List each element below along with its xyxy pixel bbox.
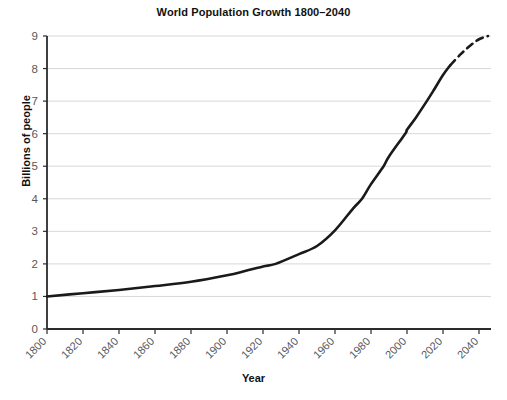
y-tick-label: 0 (32, 323, 38, 335)
x-tick-group: 1800182018401860188019001920194019601980… (23, 329, 481, 361)
y-tick-label: 1 (32, 290, 38, 302)
x-tick-label: 1960 (311, 335, 337, 361)
axis-lines-group (47, 36, 491, 329)
x-tick-label: 1940 (275, 335, 301, 361)
y-tick-group: 0123456789 (32, 30, 47, 335)
x-tick-label: 1800 (23, 335, 49, 361)
x-tick-label: 1880 (167, 335, 193, 361)
x-tick-label: 2020 (419, 335, 445, 361)
y-tick-label: 9 (32, 30, 38, 42)
data-line-dashed (450, 36, 488, 65)
x-tick-label: 1860 (131, 335, 157, 361)
x-tick-label: 1920 (239, 335, 265, 361)
x-tick-label: 2040 (455, 335, 481, 361)
y-axis-title: Billions of people (20, 71, 32, 211)
y-tick-label: 5 (32, 160, 38, 172)
chart-container: World Population Growth 1800–2040 012345… (0, 0, 507, 400)
x-axis-title: Year (0, 372, 507, 384)
data-line-solid (47, 65, 450, 296)
x-tick-label: 1900 (203, 335, 229, 361)
y-tick-label: 3 (32, 225, 38, 237)
x-tick-label: 1840 (95, 335, 121, 361)
y-tick-label: 7 (32, 95, 38, 107)
y-tick-label: 6 (32, 128, 38, 140)
x-tick-label: 1820 (59, 335, 85, 361)
x-tick-label: 1980 (347, 335, 373, 361)
y-tick-label: 2 (32, 258, 38, 270)
y-tick-label: 8 (32, 63, 38, 75)
chart-plot-area: 0123456789 18001820184018601880190019201… (0, 0, 507, 400)
gridlines-group (47, 36, 491, 296)
x-tick-label: 2000 (383, 335, 409, 361)
y-tick-label: 4 (32, 193, 39, 205)
